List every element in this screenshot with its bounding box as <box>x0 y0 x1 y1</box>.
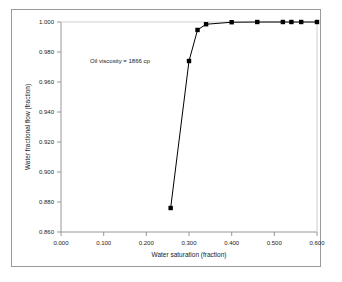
chart-plot-area: 1.000 0.980 0.960 0.940 0.920 0.900 0.88… <box>0 0 342 282</box>
annotation-oil-viscosity: Oil viscosity = 1866 cp <box>90 58 151 64</box>
data-point-marker <box>255 20 259 24</box>
data-point-marker <box>289 20 293 24</box>
y-axis-ticks <box>57 22 61 232</box>
y-tick-label: 0.920 <box>39 139 55 145</box>
y-tick-label: 0.960 <box>39 79 55 85</box>
data-point-marker <box>229 20 233 24</box>
data-point-marker <box>204 22 208 26</box>
x-tick-label: 0.400 <box>224 240 240 246</box>
y-tick-label: 0.940 <box>39 109 55 115</box>
x-tick-label: 0.600 <box>309 240 325 246</box>
x-tick-label: 0.100 <box>96 240 112 246</box>
axes-lines <box>61 22 317 232</box>
data-point-marker <box>168 206 172 210</box>
series-line-water-fractional-flow <box>171 22 317 208</box>
data-point-marker <box>315 20 319 24</box>
x-axis-title: Water saturation (fraction) <box>152 251 227 259</box>
y-tick-label: 0.860 <box>39 229 55 235</box>
x-axis-tick-labels: 0.000 0.100 0.200 0.300 0.400 0.500 0.60… <box>53 240 325 246</box>
series-markers-water-fractional-flow <box>168 20 319 210</box>
y-tick-label: 0.900 <box>39 169 55 175</box>
x-tick-label: 0.200 <box>139 240 155 246</box>
x-axis-ticks <box>61 232 317 236</box>
data-point-marker <box>299 20 303 24</box>
data-point-marker <box>187 59 191 63</box>
y-axis-tick-labels: 1.000 0.980 0.960 0.940 0.920 0.900 0.88… <box>39 19 55 235</box>
x-tick-label: 0.000 <box>53 240 69 246</box>
data-point-marker <box>281 20 285 24</box>
y-tick-label: 0.880 <box>39 199 55 205</box>
y-tick-label: 0.980 <box>39 49 55 55</box>
x-tick-label: 0.300 <box>181 240 197 246</box>
x-tick-label: 0.500 <box>267 240 283 246</box>
y-tick-label: 1.000 <box>39 19 55 25</box>
chart-figure: 1.000 0.980 0.960 0.940 0.920 0.900 0.88… <box>0 0 342 282</box>
data-point-marker <box>195 28 199 32</box>
y-axis-title: Water fractional flow (fraction) <box>24 84 32 170</box>
